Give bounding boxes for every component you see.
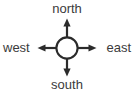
south-arrow <box>63 59 70 77</box>
label-north: north <box>0 2 134 15</box>
north-arrow <box>63 19 70 38</box>
label-east: east <box>106 41 131 54</box>
west-arrow <box>38 44 57 51</box>
compass-diagram: north south west east <box>0 0 134 95</box>
east-arrow-head <box>89 44 97 51</box>
west-arrow-head <box>38 44 46 51</box>
label-south: south <box>0 78 134 91</box>
north-arrow-head <box>63 19 70 27</box>
south-arrow-head <box>63 69 70 77</box>
label-west: west <box>3 41 30 54</box>
center-circle <box>56 37 77 58</box>
east-arrow <box>78 44 97 51</box>
